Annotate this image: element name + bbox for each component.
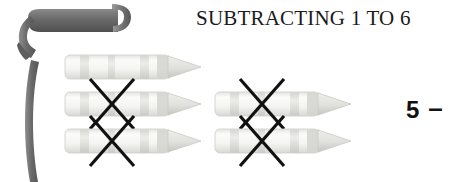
crayon-4 — [64, 126, 206, 156]
crayon-3 — [214, 89, 356, 119]
worksheet-page: SUBTRACTING 1 TO 6 — [0, 0, 464, 182]
cross-out-mark — [64, 89, 206, 119]
crayon-shape — [65, 55, 201, 79]
crayon-2 — [64, 89, 206, 119]
equation-first-operand: 5 — [406, 96, 419, 124]
counter-group — [0, 0, 464, 182]
cross-out-mark — [214, 126, 356, 156]
equation-minus-operator: – — [428, 95, 442, 121]
equation: 5 – — [406, 96, 443, 124]
crayon-5 — [214, 126, 356, 156]
cross-out-mark — [64, 126, 206, 156]
cross-out-mark — [214, 89, 356, 119]
crayon-1 — [64, 52, 206, 82]
